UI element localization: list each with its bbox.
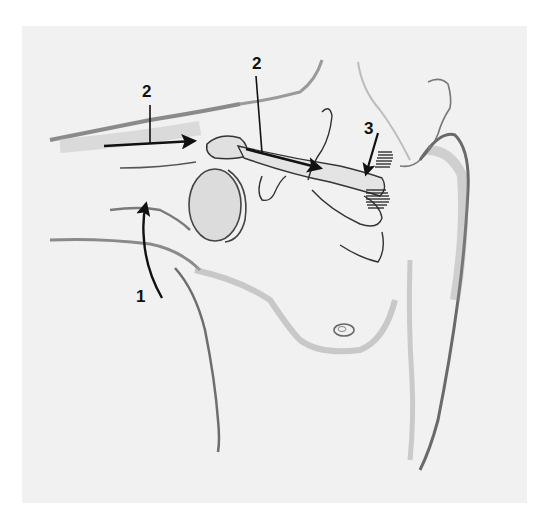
arrow-1	[143, 204, 162, 298]
leader-2b	[256, 76, 262, 153]
label-2a: 2	[142, 83, 151, 100]
sternum-loop	[340, 232, 383, 262]
coracoid	[259, 176, 286, 200]
illustration: 2 2 3 1	[0, 0, 541, 517]
arm-mid-outline	[110, 208, 190, 230]
torso-left	[175, 268, 219, 452]
neck-right	[358, 62, 410, 160]
label-2b: 2	[252, 55, 261, 72]
anatomy-drawing	[0, 0, 541, 517]
arm-middle-line	[120, 162, 196, 168]
nipple	[334, 324, 354, 336]
humeral-head	[189, 169, 241, 241]
arrow-3	[366, 133, 378, 174]
label-3: 3	[364, 120, 373, 137]
arm-lower-outline	[50, 240, 200, 271]
label-1: 1	[136, 288, 145, 305]
